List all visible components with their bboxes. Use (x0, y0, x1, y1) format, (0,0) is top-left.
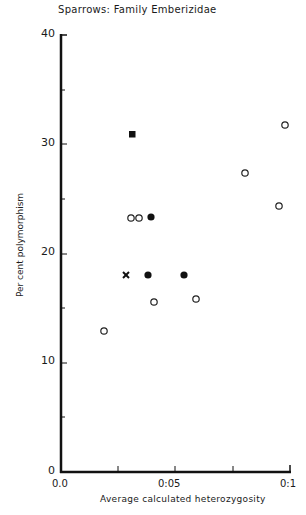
open-circle-marker (101, 328, 107, 334)
cross-marker (123, 272, 129, 278)
points-filled-circle (144, 213, 187, 278)
open-circle-marker (276, 203, 282, 209)
plot-area (0, 0, 306, 515)
filled-circle-marker (180, 271, 187, 278)
filled-circle-marker (144, 271, 151, 278)
open-circle-marker (242, 170, 248, 176)
open-circle-marker (193, 296, 199, 302)
open-circle-marker (151, 299, 157, 305)
open-circle-marker (282, 122, 288, 128)
filled-square-marker (129, 131, 136, 138)
points-open-circle (101, 122, 288, 334)
axes (60, 34, 291, 473)
open-circle-marker (136, 215, 142, 221)
filled-circle-marker (147, 213, 154, 220)
open-circle-marker (128, 215, 134, 221)
